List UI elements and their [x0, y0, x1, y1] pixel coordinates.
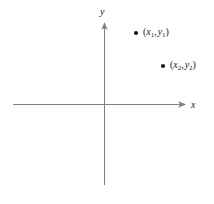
data-point-label-2: (x2, y2)	[170, 60, 196, 70]
close-paren-1: )	[166, 26, 169, 37]
point-1-y-subscript: 1	[162, 31, 166, 39]
comma-1: ,	[154, 26, 157, 37]
axes-and-points-canvas	[0, 0, 214, 204]
point-1-x-subscript: 1	[151, 31, 155, 39]
coordinate-plane-figure: x y (x1, y1) (x2, y2)	[0, 0, 214, 204]
data-point-marker-1	[134, 31, 138, 35]
data-point-label-1: (x1, y1)	[143, 27, 169, 37]
point-2-x-subscript: 2	[178, 64, 182, 72]
y-axis-label: y	[100, 7, 104, 17]
comma-2: ,	[181, 59, 184, 70]
x-axis-label: x	[191, 100, 195, 110]
point-2-y-subscript: 2	[189, 64, 193, 72]
close-paren-2: )	[193, 59, 196, 70]
data-point-marker-2	[161, 64, 165, 68]
